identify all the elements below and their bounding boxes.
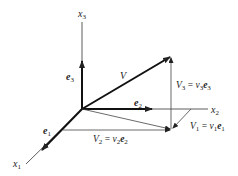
e1-label: e1 bbox=[43, 125, 51, 138]
v-vector-arrow bbox=[82, 57, 170, 109]
vector-decomposition-diagram: x3 x2 x1 e3 e2 e1 V V3 = v3e3 V1 = v1e1 … bbox=[0, 0, 238, 176]
v-vector-label: V bbox=[120, 70, 128, 81]
horizontal-projection-line bbox=[82, 109, 170, 129]
v2-component-label: V2 = v2e2 bbox=[93, 134, 128, 146]
e3-label: e3 bbox=[66, 71, 74, 84]
v1-component-line bbox=[173, 109, 191, 128]
v1-component-label: V1 = v1e1 bbox=[190, 121, 225, 133]
x3-axis-label: x3 bbox=[77, 8, 86, 21]
x1-axis-label: x1 bbox=[12, 158, 21, 171]
v3-component-label: V3 = v3e3 bbox=[176, 80, 211, 92]
x2-axis-label: x2 bbox=[210, 104, 219, 117]
